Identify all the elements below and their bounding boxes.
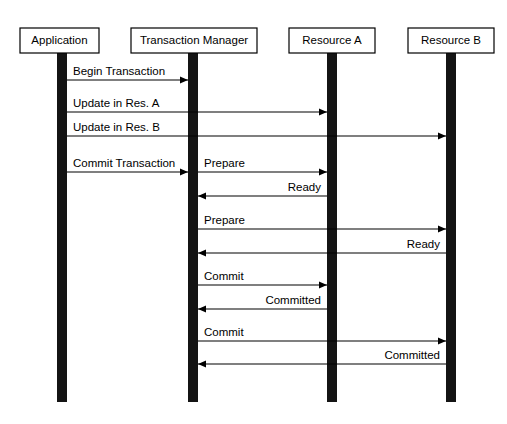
- participant-label-resource-b: Resource B: [421, 34, 481, 46]
- arrowhead: [180, 76, 188, 83]
- message-label-update-in-res-b: Update in Res. B: [73, 121, 160, 133]
- message-label-commit-a: Commit: [204, 270, 244, 282]
- message-label-commit-b: Commit: [204, 326, 244, 338]
- message-label-update-in-res-a: Update in Res. A: [73, 97, 160, 109]
- message-label-committed-b: Committed: [384, 349, 440, 361]
- lifeline-transaction-manager: [188, 53, 198, 402]
- participant-resource-a[interactable]: Resource A: [289, 28, 375, 53]
- message-label-committed-a: Committed: [265, 294, 321, 306]
- message-commit-a: Commit: [198, 270, 327, 289]
- arrowhead: [198, 192, 206, 199]
- arrowhead: [198, 249, 206, 256]
- message-commit-b: Commit: [198, 326, 446, 345]
- message-prepare-b: Prepare: [198, 214, 446, 233]
- diagram-canvas: Begin TransactionUpdate in Res. AUpdate …: [0, 0, 507, 424]
- message-prepare-a: Prepare: [198, 157, 327, 176]
- sequence-diagram: Begin TransactionUpdate in Res. AUpdate …: [0, 0, 507, 424]
- arrowhead: [319, 108, 327, 115]
- message-label-begin-transaction: Begin Transaction: [73, 65, 165, 77]
- arrowhead: [319, 281, 327, 288]
- message-label-prepare-b: Prepare: [204, 214, 245, 226]
- participant-label-application: Application: [31, 34, 87, 46]
- arrowhead: [438, 132, 446, 139]
- message-begin-transaction: Begin Transaction: [67, 65, 188, 84]
- participant-label-transaction-manager: Transaction Manager: [140, 34, 248, 46]
- message-committed-a: Committed: [198, 294, 327, 313]
- participant-boxes-layer: ApplicationTransaction ManagerResource A…: [20, 28, 494, 53]
- message-commit-transaction: Commit Transaction: [67, 157, 188, 176]
- participant-transaction-manager[interactable]: Transaction Manager: [131, 28, 257, 53]
- messages-layer: Begin TransactionUpdate in Res. AUpdate …: [67, 65, 446, 368]
- arrowhead: [198, 305, 206, 312]
- message-label-ready-b: Ready: [407, 238, 440, 250]
- participant-resource-b[interactable]: Resource B: [408, 28, 494, 53]
- participant-application[interactable]: Application: [20, 28, 99, 53]
- message-update-in-res-b: Update in Res. B: [67, 121, 446, 140]
- arrowhead: [180, 168, 188, 175]
- message-label-prepare-a: Prepare: [204, 157, 245, 169]
- message-label-commit-transaction: Commit Transaction: [73, 157, 175, 169]
- arrowhead: [198, 360, 206, 367]
- message-ready-b: Ready: [198, 238, 446, 257]
- lifeline-application: [57, 53, 67, 402]
- arrowhead: [438, 225, 446, 232]
- lifeline-resource-b: [446, 53, 456, 402]
- arrowhead: [438, 337, 446, 344]
- lifeline-resource-a: [327, 53, 337, 402]
- participant-label-resource-a: Resource A: [302, 34, 362, 46]
- arrowhead: [319, 168, 327, 175]
- message-ready-a: Ready: [198, 181, 327, 200]
- message-label-ready-a: Ready: [288, 181, 321, 193]
- message-committed-b: Committed: [198, 349, 446, 368]
